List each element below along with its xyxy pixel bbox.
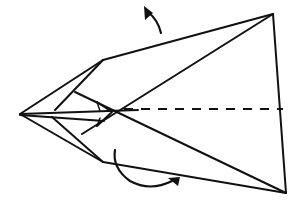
center-line-lower xyxy=(20,115,104,121)
diagonal-top-right xyxy=(82,14,273,134)
edge-tip-to-bottom-left xyxy=(20,114,103,162)
edge-tip-to-top-left xyxy=(20,60,103,114)
inner-flap-bottom xyxy=(52,117,103,162)
edge-right xyxy=(273,14,286,193)
folding-diagram xyxy=(0,0,299,205)
top-fold-arrow xyxy=(144,6,161,33)
arrow-head-up-icon xyxy=(144,6,153,20)
edge-bottom xyxy=(103,162,286,193)
edge-top xyxy=(103,14,273,60)
bottom-fold-arrow xyxy=(115,150,180,187)
inner-creases xyxy=(20,14,286,193)
diagonal-bottom-right xyxy=(75,92,286,193)
